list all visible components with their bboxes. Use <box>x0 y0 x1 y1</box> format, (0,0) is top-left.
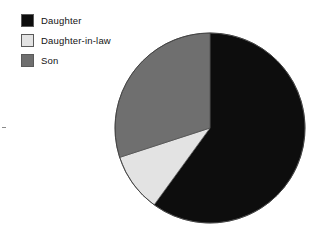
legend-label-daughter: Daughter <box>41 15 82 26</box>
legend-swatch-daughter <box>21 14 34 27</box>
legend-label-daughter-in-law: Daughter-in-law <box>41 35 111 46</box>
margin-tick-mark <box>2 127 6 128</box>
legend-swatch-daughter-in-law <box>21 34 34 47</box>
pie-chart-figure: Daughter Daughter-in-law Son <box>0 0 323 235</box>
pie-plot-area <box>113 31 307 225</box>
legend-item-daughter[interactable]: Daughter <box>21 14 141 27</box>
pie-svg <box>113 31 307 225</box>
legend-label-son: Son <box>41 55 58 66</box>
legend-swatch-son <box>21 54 34 67</box>
